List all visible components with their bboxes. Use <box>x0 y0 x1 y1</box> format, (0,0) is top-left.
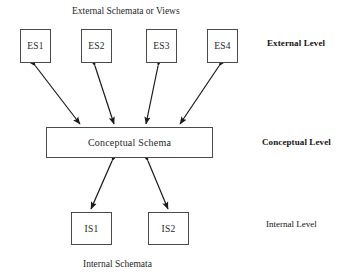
level-label-external: External Level <box>267 38 325 48</box>
internal-schema-label-is1: IS1 <box>85 224 99 234</box>
external-schema-label-es2: ES2 <box>88 41 104 51</box>
external-schema-label-es1: ES1 <box>27 41 43 51</box>
internal-schema-label-is2: IS2 <box>162 224 176 234</box>
external-schema-box-es1[interactable]: ES1 <box>20 29 51 63</box>
conceptual-schema-box[interactable]: Conceptual Schema <box>46 127 213 158</box>
external-schema-label-es3: ES3 <box>153 41 169 51</box>
arrow-conceptual-to-es1 <box>36 66 81 124</box>
internal-schema-box-is2[interactable]: IS2 <box>148 212 189 245</box>
arrow-conceptual-to-es2 <box>95 66 114 124</box>
three-level-architecture-diagram: External Schemata or Views ES1 ES2 ES3 E… <box>0 0 348 279</box>
arrow-conceptual-to-es4 <box>180 66 219 124</box>
internal-schemata-caption: Internal Schemata <box>83 259 152 269</box>
external-schema-box-es4[interactable]: ES4 <box>207 29 238 63</box>
external-schema-label-es4: ES4 <box>214 41 230 51</box>
arrow-conceptual-to-is1 <box>91 161 112 209</box>
external-schema-box-es2[interactable]: ES2 <box>81 29 112 63</box>
external-schemata-caption: External Schemata or Views <box>72 6 180 16</box>
arrow-conceptual-to-es3 <box>146 66 158 124</box>
arrow-conceptual-to-is2 <box>148 161 168 209</box>
level-label-internal: Internal Level <box>266 219 317 229</box>
internal-schema-box-is1[interactable]: IS1 <box>71 212 112 245</box>
external-schema-box-es3[interactable]: ES3 <box>146 29 177 63</box>
level-label-conceptual: Conceptual Level <box>262 137 331 147</box>
conceptual-schema-label: Conceptual Schema <box>88 137 171 148</box>
